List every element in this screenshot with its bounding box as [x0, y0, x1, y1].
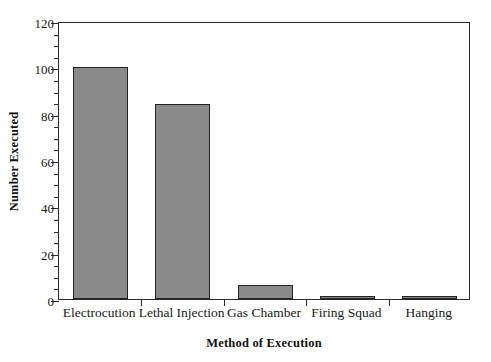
plot-frame: 020406080100120	[58, 22, 470, 300]
x-axis-title: Method of Execution	[58, 336, 470, 351]
y-axis-minor-tick	[54, 35, 59, 36]
y-axis-minor-tick	[54, 289, 59, 290]
y-axis-minor-tick	[54, 174, 59, 175]
y-axis-minor-tick	[54, 185, 59, 186]
y-axis-minor-tick	[54, 58, 59, 59]
y-axis-tick-label: 40	[41, 202, 54, 215]
y-axis-tick-label: 100	[35, 63, 55, 76]
y-axis-minor-tick	[54, 266, 59, 267]
y-axis-minor-tick	[54, 232, 59, 233]
y-axis-tick-label: 0	[48, 295, 55, 308]
bar-lethal-injection	[155, 104, 210, 299]
x-axis-tick	[306, 299, 307, 306]
bar-firing-squad	[320, 296, 375, 299]
y-axis-minor-tick	[54, 220, 59, 221]
x-axis-tick-label: Gas Chamber	[227, 306, 301, 320]
y-axis-minor-tick	[54, 104, 59, 105]
y-axis-minor-tick	[54, 139, 59, 140]
y-axis-minor-tick	[54, 81, 59, 82]
bar-hanging	[402, 296, 457, 299]
x-axis-tick-label: Hanging	[406, 306, 453, 320]
bar-electrocution	[73, 67, 128, 299]
y-axis-minor-tick	[54, 278, 59, 279]
y-axis-tick-label: 60	[41, 156, 54, 169]
y-axis-minor-tick	[54, 46, 59, 47]
x-axis-tick-label: Electrocution	[63, 306, 136, 320]
y-axis-minor-tick	[54, 150, 59, 151]
y-axis-title-text: Number Executed	[8, 111, 23, 211]
x-axis-tick	[389, 299, 390, 306]
y-axis-minor-tick	[54, 197, 59, 198]
bar-gas-chamber	[238, 285, 293, 299]
x-axis-tick-label: Firing Squad	[311, 306, 381, 320]
y-axis-tick-label: 120	[35, 17, 55, 30]
bar-chart-figure: Number Executed 020406080100120 Electroc…	[0, 0, 491, 362]
y-axis-minor-tick	[54, 243, 59, 244]
y-axis-tick-label: 20	[41, 248, 54, 261]
plot-area	[59, 23, 469, 299]
x-axis-tick-label: Lethal Injection	[139, 306, 225, 320]
y-axis-minor-tick	[54, 127, 59, 128]
y-axis-tick-label: 80	[41, 109, 54, 122]
y-axis-minor-tick	[54, 93, 59, 94]
y-axis-title: Number Executed	[6, 22, 24, 300]
